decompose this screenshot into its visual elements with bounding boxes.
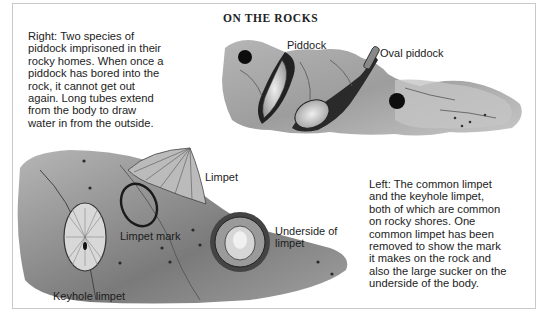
label-underside-of-limpet: Underside of limpet — [275, 225, 337, 249]
caption-limpets: Left: The common limpet and the keyhole … — [369, 178, 539, 290]
label-keyhole-limpet: Keyhole limpet — [53, 290, 125, 302]
label-limpet-mark: Limpet mark — [120, 230, 181, 242]
label-limpet: Limpet — [205, 171, 238, 183]
